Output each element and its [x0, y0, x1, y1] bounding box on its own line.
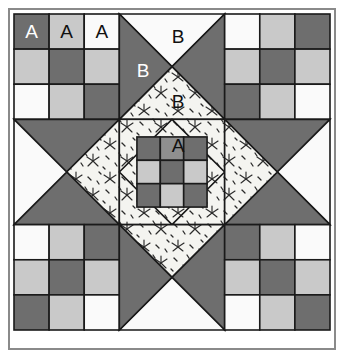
middle-left-hourglass	[14, 119, 119, 224]
patch-square	[84, 49, 119, 84]
label-a-3: A	[95, 21, 108, 42]
patch-square	[260, 260, 295, 295]
patch-square	[84, 225, 119, 260]
patch-square	[225, 14, 260, 49]
patch-square	[225, 84, 260, 119]
patch-square	[49, 260, 84, 295]
patch-square	[225, 49, 260, 84]
patch-square	[225, 260, 260, 295]
label-b-1: B	[172, 26, 185, 47]
patch-square	[260, 225, 295, 260]
patch-square	[295, 14, 330, 49]
patch-square	[295, 295, 330, 330]
patch-square	[84, 295, 119, 330]
patch-square	[49, 225, 84, 260]
patch-square	[14, 295, 49, 330]
patch-square	[225, 295, 260, 330]
patch-square	[14, 225, 49, 260]
patch-square	[14, 260, 49, 295]
center-patch-square	[137, 160, 160, 183]
center-patch-square	[160, 160, 183, 183]
patch-square	[295, 260, 330, 295]
patch-square	[295, 49, 330, 84]
patch-square	[49, 84, 84, 119]
patch-square	[260, 84, 295, 119]
patch-square	[84, 84, 119, 119]
center-patch-square	[184, 184, 207, 207]
patch-square	[14, 49, 49, 84]
patch-square	[225, 225, 260, 260]
patch-square	[14, 84, 49, 119]
patch-square	[260, 49, 295, 84]
patch-square	[260, 295, 295, 330]
patch-square	[295, 225, 330, 260]
quilt-block-diagram: AAABBBA	[0, 0, 344, 358]
patch-square	[260, 14, 295, 49]
middle-right-hourglass	[225, 119, 330, 224]
center-patch-square	[137, 184, 160, 207]
label-a-2: A	[60, 21, 73, 42]
center-patch-square	[160, 184, 183, 207]
top-right-nine-patch	[225, 14, 330, 119]
label-a-1: A	[25, 21, 38, 42]
label-a-4: A	[172, 135, 185, 156]
center-patch-square	[137, 137, 160, 160]
patch-square	[84, 260, 119, 295]
patch-square	[295, 84, 330, 119]
patch-square	[49, 49, 84, 84]
patch-square	[49, 295, 84, 330]
bottom-right-nine-patch	[225, 225, 330, 330]
label-b-3: B	[172, 91, 185, 112]
quilt-diagram-stage: AAABBBA	[0, 0, 344, 358]
quilt-units-group	[14, 14, 330, 330]
bottom-left-nine-patch	[14, 225, 119, 330]
center-patch-square	[184, 137, 207, 160]
label-b-2: B	[137, 60, 150, 81]
center-patch-square	[184, 160, 207, 183]
bottom-center-hourglass	[119, 225, 224, 330]
